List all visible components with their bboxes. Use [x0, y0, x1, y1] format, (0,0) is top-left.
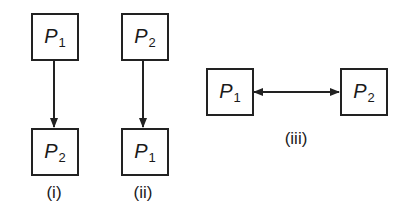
box-ii-bottom: P1: [121, 128, 169, 176]
process-subscript: 2: [368, 90, 375, 105]
process-label: P: [219, 80, 232, 102]
process-label: P: [44, 25, 57, 47]
box-iii-left: P1: [206, 68, 254, 116]
process-subscript: 2: [59, 150, 66, 165]
box-iii-right: P2: [340, 68, 388, 116]
box-i-bottom: P2: [31, 128, 79, 176]
box-ii-top: P2: [121, 13, 169, 61]
process-subscript: 1: [149, 150, 156, 165]
process-label: P: [134, 140, 147, 162]
process-label: P: [353, 80, 366, 102]
caption-ii: (ii): [134, 184, 153, 201]
caption-i: (i): [46, 184, 61, 201]
box-i-top: P1: [31, 13, 79, 61]
process-subscript: 1: [234, 90, 241, 105]
process-label: P: [44, 140, 57, 162]
process-subscript: 1: [59, 35, 66, 50]
process-subscript: 2: [149, 35, 156, 50]
process-label: P: [134, 25, 147, 47]
caption-iii: (iii): [285, 130, 308, 147]
